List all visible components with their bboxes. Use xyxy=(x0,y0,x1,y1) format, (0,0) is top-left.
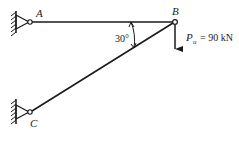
pin-support-c xyxy=(11,99,29,124)
angle-label: 30° xyxy=(115,33,129,44)
node-label-a: A xyxy=(35,7,43,19)
node-label-c: C xyxy=(30,117,38,129)
truss-diagram: A B C 30° P u = 90 kN xyxy=(0,0,239,141)
pin-a xyxy=(28,20,32,24)
pin-support-a xyxy=(11,11,29,36)
load-label: P u = 90 kN xyxy=(185,31,233,46)
node-label-b: B xyxy=(172,5,179,17)
load-symbol: P xyxy=(185,31,193,43)
member-cb xyxy=(32,23,173,111)
load-value: = 90 kN xyxy=(200,32,233,43)
pin-c xyxy=(28,110,32,114)
pin-b xyxy=(173,20,178,25)
load-subscript: u xyxy=(193,38,197,46)
